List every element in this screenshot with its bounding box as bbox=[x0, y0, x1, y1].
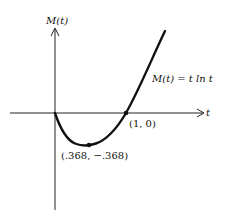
min-point-label: (.368, −.368) bbox=[61, 150, 128, 161]
min-point-marker bbox=[87, 143, 92, 148]
root-point-label: (1, 0) bbox=[129, 118, 156, 129]
curve-label: M(t) = t ln t bbox=[151, 73, 214, 84]
root-point-marker bbox=[124, 111, 129, 116]
x-axis-label: t bbox=[206, 107, 211, 118]
y-axis-label: M(t) bbox=[45, 15, 68, 26]
chart: M(t) t M(t) = t ln t (1, 0) (.368, −.368… bbox=[0, 0, 225, 223]
